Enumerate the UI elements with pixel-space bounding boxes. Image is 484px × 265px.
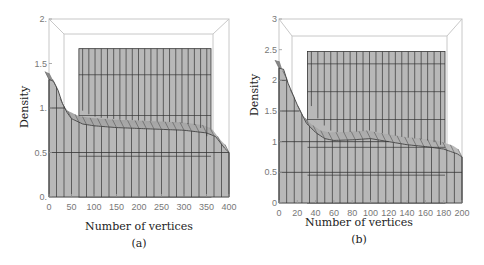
- y-tick-label: 0.: [39, 192, 47, 202]
- y-tick-label: 1.5: [34, 59, 47, 69]
- chart-b-ylabel: Density: [248, 74, 261, 116]
- y-tick-label: 2.5: [264, 45, 277, 55]
- y-tick-label: 1.5: [264, 106, 277, 116]
- x-tick-label: 50: [66, 202, 76, 212]
- y-tick-label: 1.: [39, 103, 47, 113]
- chart-panel-b: 00.511.522.53020406080100120140160180200…: [242, 0, 484, 265]
- y-tick-label: 1: [272, 137, 277, 147]
- y-tick-label: 0.5: [264, 167, 277, 177]
- chart-a-ylabel: Density: [18, 86, 31, 128]
- y-tick-label: 0: [272, 198, 277, 208]
- x-tick-label: 200: [131, 202, 146, 212]
- x-tick-label: 0: [46, 202, 51, 212]
- y-tick-label: 2: [272, 75, 277, 85]
- chart-a-xlabel: Number of vertices: [18, 220, 260, 233]
- x-tick-label: 350: [199, 202, 214, 212]
- x-tick-label: 100: [86, 202, 101, 212]
- x-tick-label: 400: [221, 202, 236, 212]
- x-tick-label: 150: [109, 202, 124, 212]
- chart-panel-a: 0.0.51.1.52.050100150200250300350400 Den…: [0, 0, 242, 265]
- chart-b-xlabel: Number of vertices: [238, 216, 480, 229]
- y-tick-label: 2.: [39, 14, 47, 24]
- chart-a-panel-label: (a): [18, 237, 260, 250]
- x-tick-label: 300: [176, 202, 191, 212]
- y-tick-label: 3: [272, 14, 277, 24]
- y-tick-label: 0.5: [34, 148, 47, 158]
- x-tick-label: 250: [154, 202, 169, 212]
- chart-b-panel-label: (b): [238, 233, 480, 246]
